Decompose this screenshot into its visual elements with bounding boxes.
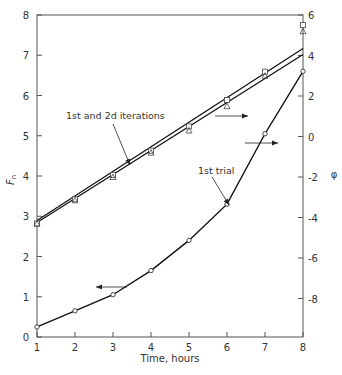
y-right-axis-title: φ xyxy=(331,169,338,180)
x-tick-label: 8 xyxy=(300,342,306,353)
annotation-trial: 1st trial xyxy=(198,165,234,176)
marker-circle xyxy=(187,238,191,242)
marker-square xyxy=(301,23,306,28)
y-tick-label: 5 xyxy=(23,131,29,142)
marker-circle xyxy=(73,309,77,313)
marker-circle xyxy=(149,268,153,272)
y-right-tick-label: 2 xyxy=(308,91,314,102)
y-right-tick-label: 0 xyxy=(308,132,314,143)
arrow-left-axis-icon-head xyxy=(96,285,102,290)
marker-circle xyxy=(263,132,267,136)
annotations xyxy=(96,114,278,290)
x-axis-title: Time, hours xyxy=(140,353,200,364)
x-axis-ticks: 12345678 xyxy=(34,332,306,353)
y-tick-label: 2 xyxy=(23,252,29,263)
marker-circle xyxy=(111,293,115,297)
y-right-tick-label: -2 xyxy=(308,172,318,183)
plot-frame xyxy=(37,15,303,337)
y-right-tick-label: -4 xyxy=(308,213,318,224)
y-right-tick-label: -6 xyxy=(308,253,318,264)
chart: 12345678 012345678 6420-2-4-6-8 Time, ho… xyxy=(0,0,342,375)
y-left-axis-title: Fn xyxy=(5,175,18,185)
marker-circle xyxy=(301,69,305,73)
annotation-iterations: 1st and 2d iterations xyxy=(66,110,165,121)
x-tick-label: 4 xyxy=(148,342,154,353)
pointer-iterations-icon xyxy=(113,124,130,165)
y-tick-label: 0 xyxy=(23,332,29,343)
x-tick-label: 3 xyxy=(110,342,116,353)
arrow-right-axis-icon-head xyxy=(272,141,278,146)
y-right-axis-ticks: 6420-2-4-6-8 xyxy=(298,10,318,305)
y-tick-label: 4 xyxy=(23,171,29,182)
y-right-tick-label: 4 xyxy=(308,51,314,62)
x-tick-label: 1 xyxy=(34,342,40,353)
x-tick-label: 2 xyxy=(72,342,78,353)
y-tick-label: 1 xyxy=(23,292,29,303)
marker-square xyxy=(225,98,230,103)
x-tick-label: 7 xyxy=(262,342,268,353)
plot-border xyxy=(37,15,303,337)
series-lines xyxy=(37,48,303,326)
y-right-tick-label: -8 xyxy=(308,294,318,305)
y-right-tick-label: 6 xyxy=(308,10,314,21)
series-markers xyxy=(34,23,306,330)
y-tick-label: 8 xyxy=(23,10,29,21)
arrow-right-axis-icon-head xyxy=(242,114,248,119)
y-tick-label: 6 xyxy=(23,91,29,102)
pointer-iterations-icon-head xyxy=(125,159,130,165)
y-tick-label: 7 xyxy=(23,50,29,61)
x-tick-label: 6 xyxy=(224,342,230,353)
y-tick-label: 3 xyxy=(23,211,29,222)
y-left-axis-ticks: 012345678 xyxy=(23,10,42,343)
x-tick-label: 5 xyxy=(186,342,192,353)
marker-circle xyxy=(35,325,39,329)
